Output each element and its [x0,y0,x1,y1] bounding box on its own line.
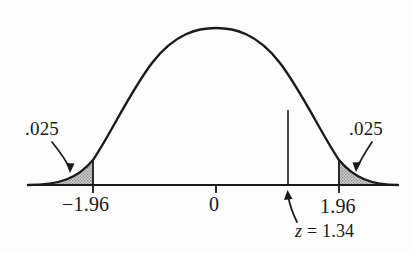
shaded-region-left-tail [28,28,398,185]
tail-probability-label-left: .025 [25,119,59,138]
tail-probability-label-right: .025 [349,119,383,138]
x-tick-label-positive: 1.96 [320,196,356,216]
x-tick-label-negative: −1.96 [62,194,109,214]
callout-arrow-left-tail [52,142,75,173]
x-tick-label-zero: 0 [209,194,219,214]
z-statistic-equals-sign: = [302,221,322,241]
normal-curve [28,28,398,185]
callout-arrow-right-tail [353,142,373,172]
callout-arrow-z-statistic [284,190,297,222]
z-statistic-label: z = 1.34 [295,222,354,240]
shaded-region-right-tail [28,28,398,185]
z-statistic-value: 1.34 [322,221,354,241]
normal-distribution-figure: .025 .025 −1.96 0 1.96 z = 1.34 [0,0,411,253]
